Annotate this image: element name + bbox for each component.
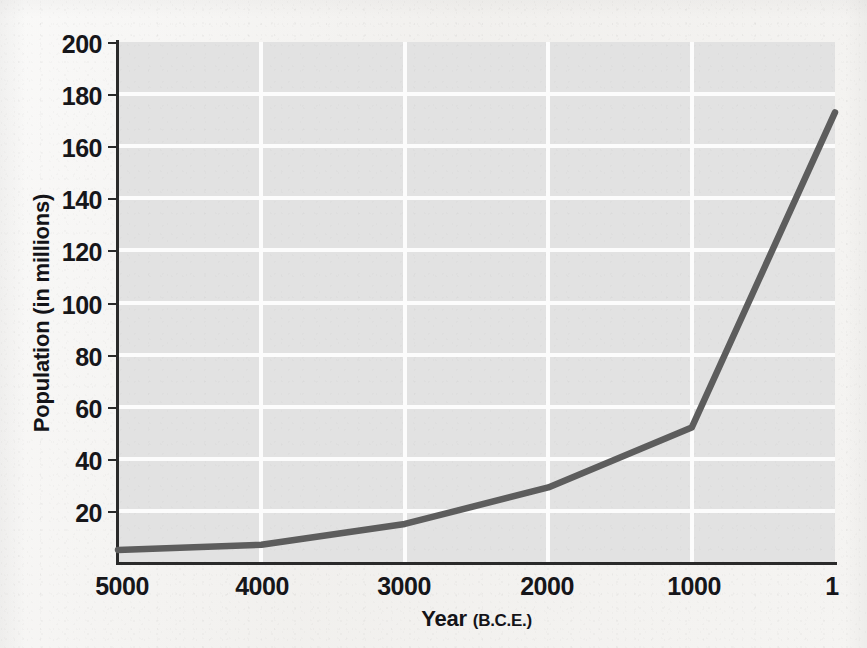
- x-axis-title-era: (B.C.E.): [473, 611, 532, 630]
- y-tick-mark-120: [108, 250, 117, 252]
- y-tick-mark-140: [108, 198, 117, 200]
- y-tick-mark-200: [108, 42, 117, 44]
- x-tick-label-4000: 4000: [235, 572, 289, 601]
- x-axis-title-main: Year: [421, 606, 467, 631]
- x-axis-title: Year (B.C.E.): [118, 606, 835, 632]
- gridline-y-80: [118, 353, 835, 357]
- x-tick-label-3000: 3000: [377, 572, 431, 601]
- gridline-y-120: [118, 248, 835, 252]
- y-tick-mark-80: [108, 355, 117, 357]
- figure-page: 200 180 160 140 120 100 80 60 40 20 5000…: [0, 0, 867, 648]
- gridline-y-20: [118, 509, 835, 513]
- gridline-x-2000: [546, 42, 550, 563]
- plot-area: [118, 42, 835, 563]
- y-tick-mark-60: [108, 407, 117, 409]
- x-tick-label-5000: 5000: [95, 572, 149, 601]
- gridline-x-4000: [259, 42, 263, 563]
- y-tick-mark-40: [108, 459, 117, 461]
- y-tick-label-200: 200: [16, 30, 102, 59]
- y-tick-label-180: 180: [16, 82, 102, 111]
- gridline-y-40: [118, 457, 835, 461]
- gridline-y-140: [118, 196, 835, 200]
- gridline-y-100: [118, 301, 835, 305]
- gridline-x-3000: [403, 42, 407, 563]
- y-tick-mark-180: [108, 94, 117, 96]
- y-tick-mark-20: [108, 511, 117, 513]
- y-tick-mark-100: [108, 303, 117, 305]
- gridline-x-1000: [690, 42, 694, 563]
- gridline-y-180: [118, 92, 835, 96]
- x-tick-label-1: 1: [825, 572, 838, 601]
- x-tick-label-1000: 1000: [667, 572, 721, 601]
- y-tick-mark-160: [108, 146, 117, 148]
- y-axis-title: Population (in millions): [29, 123, 55, 503]
- gridline-y-160: [118, 144, 835, 148]
- x-axis-line: [116, 562, 837, 565]
- gridline-y-60: [118, 405, 835, 409]
- x-tick-label-2000: 2000: [520, 572, 574, 601]
- population-line-chart: 200 180 160 140 120 100 80 60 40 20 5000…: [0, 0, 867, 648]
